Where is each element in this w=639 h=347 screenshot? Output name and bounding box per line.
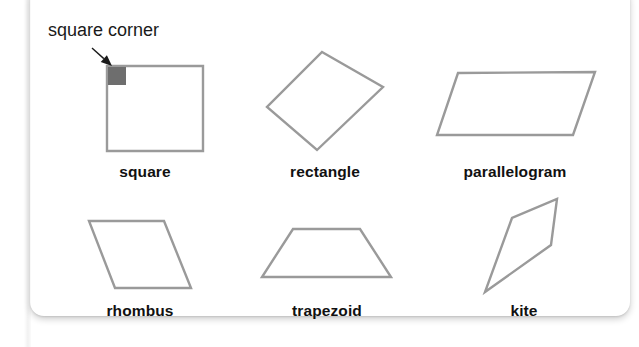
shape-rectangle xyxy=(267,52,383,150)
square-corner-marker xyxy=(108,67,126,85)
shape-label-parallelogram: parallelogram xyxy=(464,163,567,181)
shape-parallelogram xyxy=(437,72,595,135)
shape-label-trapezoid: trapezoid xyxy=(292,302,362,320)
shape-label-rectangle: rectangle xyxy=(290,163,360,181)
shape-label-rhombus: rhombus xyxy=(106,302,173,320)
worksheet-page: square corner squarerectangleparallelogr… xyxy=(0,0,639,347)
shape-kite xyxy=(485,199,557,292)
shape-rhombus xyxy=(89,221,191,288)
shape-trapezoid xyxy=(262,229,391,277)
square-corner-label: square corner xyxy=(48,20,159,41)
square-corner-annotation xyxy=(92,48,112,66)
annotation-arrow-line xyxy=(92,48,104,59)
shape-label-square: square xyxy=(119,163,170,181)
shape-label-kite: kite xyxy=(510,302,537,320)
